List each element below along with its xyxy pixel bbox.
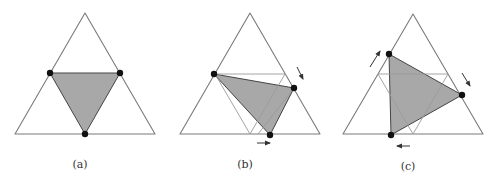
panel-label-c: (c) [401,160,416,173]
panel-label-b: (b) [237,158,253,171]
panel-a [15,13,155,137]
panel-c [343,14,483,146]
vertex-dot [47,70,53,76]
outer-triangle [180,13,320,134]
vertex-dot [82,131,88,137]
shaded-triangle [389,54,462,135]
vertex-dot [459,92,465,98]
direction-arrow-icon [297,67,303,79]
panel-label-a: (a) [72,158,87,171]
direction-arrow-icon [370,51,380,67]
vertex-dot [388,132,394,138]
direction-arrow-icon [462,73,470,86]
vertex-dot [211,71,217,77]
triangle-figure [0,0,499,182]
shaded-triangle [50,73,120,134]
vertex-dot [117,70,123,76]
vertex-dot [267,132,273,138]
vertex-dot [291,85,297,91]
shaded-triangle [214,74,294,135]
vertex-dot [386,51,392,57]
panel-b [180,13,320,143]
